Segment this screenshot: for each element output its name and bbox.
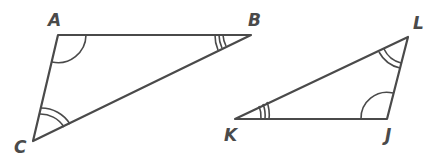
vertex-label-l: L [413, 13, 424, 33]
triangle-abc-outline [33, 35, 251, 141]
vertex-label-j: J [382, 125, 391, 145]
angle-l-double-arc [379, 49, 401, 68]
triangle-abc [33, 35, 251, 141]
vertex-label-a: A [46, 10, 61, 30]
vertex-label-b: B [248, 10, 261, 30]
vertex-label-k: K [224, 125, 239, 145]
triangle-ljk [235, 37, 408, 119]
similar-triangles-diagram: A B C L K J [0, 0, 444, 156]
triangle-ljk-outline [235, 37, 408, 119]
vertex-label-c: C [14, 137, 27, 156]
